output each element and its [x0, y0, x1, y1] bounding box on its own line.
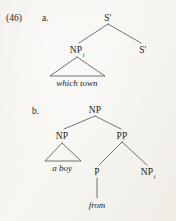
terminal-b-from: from — [89, 201, 106, 210]
item-letter-a: a. — [42, 14, 49, 24]
branch-b-pp-to-p — [99, 142, 122, 165]
node-b-root-np: NP — [89, 106, 102, 116]
figure-page: (46) a. S′ NPi S′ which town b. NP NP PP… — [0, 0, 176, 221]
triangle-a-which-town — [50, 57, 105, 76]
branch-b-root-to-pp — [95, 116, 121, 129]
node-a-np-subscript: i — [83, 52, 85, 58]
branch-b-root-to-np — [64, 116, 95, 129]
triangle-b-a-boy — [45, 143, 81, 161]
node-b-np-trace-label: NP — [141, 167, 154, 177]
example-number: (46) — [6, 14, 22, 24]
node-a-root-sbar: S′ — [104, 14, 111, 24]
terminal-a-which-town: which town — [56, 79, 97, 88]
node-b-np-left: NP — [56, 132, 69, 142]
node-a-np-label: NP — [70, 45, 83, 55]
branch-b-pp-to-np — [122, 142, 147, 165]
node-b-np-trace: NPi — [141, 168, 155, 179]
node-b-p: P — [94, 168, 99, 178]
node-b-pp: PP — [117, 132, 128, 142]
branch-a-root-to-np — [79, 24, 108, 43]
node-a-np-moved: NPi — [70, 46, 84, 57]
terminal-b-a-boy: a boy — [52, 164, 72, 173]
node-b-np-trace-subscript: i — [154, 174, 156, 180]
item-letter-b: b. — [32, 107, 39, 117]
node-a-sbar-remnant: S′ — [139, 46, 146, 56]
branch-a-root-to-sbar — [108, 24, 141, 43]
